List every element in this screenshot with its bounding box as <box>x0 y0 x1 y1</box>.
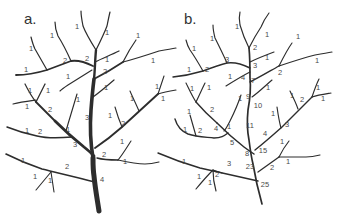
branch-order-label: 1 <box>25 126 29 135</box>
branch-order-label: 1 <box>187 107 191 116</box>
branch-order-label: 2 <box>121 119 125 128</box>
branch-order-label: 2 <box>63 56 67 65</box>
branch-order-label: 1 <box>28 86 32 95</box>
tree-a-branches <box>6 11 176 211</box>
figure-panel: a. b. <box>0 0 345 214</box>
branch-order-label: 1 <box>151 56 155 65</box>
branch-order-label: 1 <box>183 125 187 134</box>
branch-order-label: 1 <box>76 95 80 104</box>
branch-stroke <box>196 83 205 102</box>
branch-stroke <box>90 79 94 158</box>
branch-order-label: 1 <box>296 32 300 41</box>
branch-order-label: 2 <box>300 95 304 104</box>
branch-order-label: 2 <box>278 68 282 77</box>
branch-order-label: 1 <box>280 137 284 146</box>
branch-order-label: 1 <box>75 22 79 31</box>
panel-b-letter: b. <box>184 10 197 27</box>
branch-stroke <box>36 102 55 121</box>
branch-order-label: 2 <box>65 162 69 171</box>
branch-stroke <box>93 158 99 211</box>
branch-stroke <box>97 158 118 160</box>
branch-order-label: 2 <box>103 67 107 76</box>
branch-stroke <box>123 48 176 62</box>
branch-order-label: 1 <box>210 34 214 43</box>
branch-order-label: 1 <box>33 172 37 181</box>
branch-order-label: 1 <box>161 94 165 103</box>
branch-order-label: 1 <box>50 31 54 40</box>
branch-stroke <box>31 37 47 70</box>
branch-order-label: 1 <box>208 178 212 187</box>
branch-order-label: 5 <box>230 138 234 147</box>
branch-order-label: 1 <box>190 84 194 93</box>
branch-order-label: 4 <box>241 73 245 82</box>
branch-stroke <box>258 157 279 172</box>
branch-order-label: 1 <box>265 30 269 39</box>
branch-order-label: 1 <box>105 28 109 37</box>
branch-order-label: 1 <box>155 82 159 91</box>
branch-stroke <box>81 11 96 50</box>
branch-order-label: 1 <box>316 83 320 92</box>
branch-order-label: 1 <box>48 176 52 185</box>
branch-stroke <box>277 107 281 128</box>
branch-order-label: 9 <box>246 92 250 101</box>
branch-order-label: 1 <box>207 83 211 92</box>
branch-order-label: 7 <box>251 76 255 85</box>
branch-order-label: 1 <box>265 53 269 62</box>
branch-order-label: 3 <box>253 61 257 70</box>
branch-order-label: 2 <box>102 150 106 159</box>
branch-order-label: 1 <box>321 94 325 103</box>
branch-stroke <box>95 94 158 148</box>
branch-order-label: 1 <box>182 157 186 166</box>
panel-a-letter: a. <box>24 10 37 27</box>
branch-order-label: 4 <box>100 175 104 184</box>
branch-order-label: 4 <box>263 129 267 138</box>
branch-order-label: 3 <box>225 55 229 64</box>
branch-stroke <box>173 63 250 77</box>
branch-order-label: 10 <box>254 101 262 110</box>
branch-stroke <box>279 52 332 66</box>
branch-order-label: 1 <box>290 91 294 100</box>
branch-order-label: 11 <box>246 121 254 130</box>
branch-order-label: 1 <box>120 137 124 146</box>
branch-stroke <box>60 70 92 91</box>
branch-order-label: 1 <box>108 111 112 120</box>
tree-ordering-figure: a. b. <box>0 0 345 214</box>
branch-order-label: 1 <box>25 102 29 111</box>
branch-order-label: 23 <box>246 162 254 171</box>
branch-order-label: 2 <box>85 54 89 63</box>
branch-order-label: 1 <box>235 22 239 31</box>
branch-order-label: 2 <box>38 127 42 136</box>
branch-order-label: 1 <box>46 86 50 95</box>
branch-order-label: 1 <box>66 125 70 134</box>
branch-order-label: 1 <box>266 83 270 92</box>
branch-order-label: 1 <box>21 156 25 165</box>
branch-order-label: 1 <box>227 122 231 131</box>
branch-order-label: 1 <box>66 72 70 81</box>
branch-order-label: 25 <box>261 180 269 189</box>
branch-stroke <box>36 84 45 102</box>
branch-order-label: 8 <box>245 149 249 158</box>
branch-stroke <box>94 62 123 79</box>
branch-order-label: 1 <box>104 83 108 92</box>
branch-order-label: 3 <box>227 159 231 168</box>
branch-order-label: 1 <box>29 44 33 53</box>
branch-order-label: 1 <box>136 31 140 40</box>
branch-stroke <box>239 12 249 48</box>
branch-order-label: 1 <box>105 55 109 64</box>
branch-order-label: 3 <box>285 120 289 129</box>
branch-order-label: 2 <box>198 126 202 135</box>
branch-order-label: 1 <box>315 56 319 65</box>
tree-b-branches <box>158 12 332 204</box>
branch-stroke <box>190 115 196 136</box>
branch-order-label: 1 <box>271 109 275 118</box>
branch-order-label: 2 <box>270 163 274 172</box>
branch-order-label: 4 <box>214 124 218 133</box>
branch-order-label: 1 <box>123 157 127 166</box>
branch-order-label: 2 <box>215 170 219 179</box>
branch-stroke <box>158 153 258 181</box>
branch-order-label: 3 <box>73 140 77 149</box>
branch-order-label: 1 <box>192 44 196 53</box>
branch-order-label: 2 <box>210 105 214 114</box>
branch-order-label: 1 <box>130 94 134 103</box>
branch-stroke <box>55 121 94 156</box>
